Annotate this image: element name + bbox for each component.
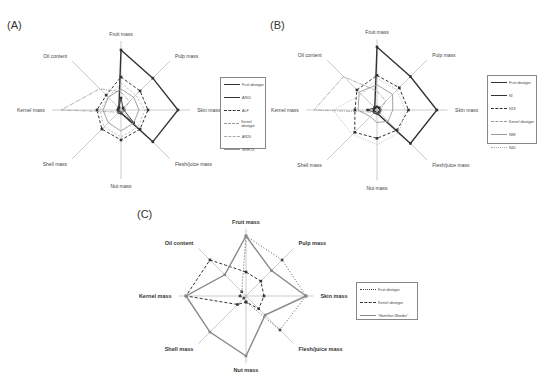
- legend-label: Kernel ideotype: [241, 120, 265, 128]
- legend-swatch-icon: [491, 134, 507, 135]
- legend-item: ALF: [221, 104, 265, 117]
- data-marker: [223, 273, 226, 276]
- radar-chart-c: Fruit massPulp massSkin massFlesh/juice …: [139, 219, 348, 374]
- data-marker: [120, 97, 123, 100]
- axis-line: [72, 110, 121, 159]
- data-marker: [239, 295, 242, 298]
- legend-label: N40: [509, 146, 516, 150]
- axis-label: Flesh/juice mass: [432, 162, 470, 168]
- axis-label: Skin mass: [455, 107, 479, 113]
- data-marker: [376, 137, 379, 140]
- legend-label: NI: [509, 94, 513, 98]
- axis-label: Oil content: [165, 240, 194, 246]
- axis-label: Flesh/juice mass: [175, 161, 213, 167]
- legend-swatch-icon: [224, 97, 240, 98]
- axis-label: Pulp mass: [175, 53, 199, 59]
- axis-line: [198, 248, 246, 296]
- legend-item: AR01: [221, 91, 265, 104]
- data-marker: [305, 295, 308, 298]
- legend-item: N40: [488, 141, 536, 154]
- data-marker: [177, 109, 180, 112]
- legend-item: NI: [488, 89, 536, 102]
- legend-swatch-icon: [360, 302, 376, 303]
- radar-chart-b: Fruit massPulp massSkin massFlesh/juice …: [271, 29, 479, 191]
- data-marker: [396, 129, 399, 132]
- axis-label: Shell mass: [165, 346, 194, 352]
- axis-label: Oil content: [298, 52, 323, 58]
- data-marker: [398, 86, 401, 89]
- data-marker: [209, 331, 212, 334]
- data-marker: [409, 142, 412, 145]
- data-marker: [245, 235, 248, 238]
- axis-label: Nut mass: [234, 367, 259, 373]
- legend-label: "Hamilton Wonder": [378, 314, 408, 318]
- data-marker: [245, 355, 248, 358]
- data-marker: [245, 271, 248, 274]
- legend-label: Fruit ideotype: [242, 83, 264, 87]
- data-marker: [376, 46, 379, 49]
- legend-item: Kernel ideotype: [488, 115, 536, 128]
- axis-label: Fruit mass: [109, 31, 133, 37]
- data-marker: [147, 109, 150, 112]
- legend-label: N18: [509, 107, 516, 111]
- legend-swatch-icon: [224, 149, 240, 150]
- axis-label: Pulp mass: [299, 240, 327, 246]
- data-marker: [120, 49, 123, 52]
- axis-label: Pulp mass: [432, 52, 456, 58]
- axis-line: [377, 60, 427, 110]
- data-marker: [152, 77, 155, 80]
- data-marker: [120, 76, 123, 79]
- data-marker: [354, 109, 357, 112]
- axis-label: Skin mass: [320, 293, 347, 299]
- legend-c: Fruit ideotypeKernel ideotype"Hamilton W…: [356, 282, 418, 320]
- data-marker: [407, 109, 410, 112]
- legend-swatch-icon: [224, 84, 240, 85]
- data-marker: [105, 94, 108, 97]
- data-marker: [270, 269, 273, 272]
- legend-label: WRF23: [242, 148, 254, 152]
- legend-label: Kernel ideotype: [378, 301, 403, 305]
- legend-item: Fruit ideotype: [357, 283, 417, 296]
- axis-label: Nut mass: [110, 183, 132, 189]
- data-marker: [236, 303, 239, 306]
- data-marker: [366, 109, 369, 112]
- legend-swatch-icon: [491, 108, 507, 109]
- legend-swatch-icon: [224, 123, 239, 124]
- legend-swatch-icon: [491, 82, 507, 83]
- series-line: [118, 50, 178, 142]
- legend-label: Kernel ideotype: [509, 120, 534, 124]
- data-marker: [120, 139, 123, 142]
- data-marker: [353, 131, 356, 134]
- series-line: [374, 47, 437, 143]
- axis-label: Kernel mass: [17, 107, 45, 113]
- data-marker: [152, 141, 155, 144]
- data-marker: [264, 314, 267, 317]
- axis-label: Shell mass: [43, 161, 68, 167]
- legend-swatch-icon: [491, 95, 507, 96]
- legend-swatch-icon: [491, 147, 507, 148]
- data-marker: [376, 106, 379, 109]
- axis-label: Skin mass: [197, 107, 221, 113]
- legend-swatch-icon: [224, 110, 240, 111]
- data-marker: [185, 295, 188, 298]
- axis-label: Fruit mass: [365, 29, 389, 35]
- data-marker: [240, 290, 243, 293]
- axis-line: [198, 296, 246, 344]
- axis-label: Fruit mass: [232, 219, 260, 225]
- series-line: [186, 260, 264, 309]
- axis-label: Oil content: [43, 53, 68, 59]
- legend-label: ALF: [242, 109, 249, 113]
- legend-swatch-icon: [224, 136, 240, 137]
- axis-label: Flesh/juice mass: [299, 346, 343, 352]
- axis-label: Kernel mass: [271, 107, 299, 113]
- axis-line: [327, 110, 377, 160]
- data-marker: [356, 89, 359, 92]
- data-marker: [260, 280, 263, 283]
- data-marker: [436, 109, 439, 112]
- legend-item: N88: [488, 128, 536, 141]
- legend-label: Fruit ideotype: [509, 81, 531, 85]
- data-marker: [257, 307, 260, 310]
- data-marker: [243, 297, 246, 300]
- data-marker: [118, 107, 121, 110]
- legend-label: AR20: [242, 135, 251, 139]
